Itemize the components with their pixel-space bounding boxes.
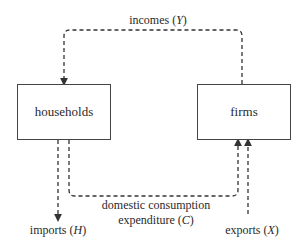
firms-label: firms	[230, 104, 257, 120]
firms-node: firms	[197, 84, 291, 140]
imports-label: imports (H)	[20, 223, 96, 238]
incomes-label: incomes (Y)	[118, 13, 198, 28]
households-node: households	[17, 84, 111, 140]
consumption-label: domestic consumption expenditure (C)	[94, 198, 218, 228]
households-label: households	[35, 104, 94, 120]
incomes-flow-line	[64, 30, 242, 84]
exports-label: exports (X)	[216, 223, 288, 238]
consumption-flow-line	[69, 140, 238, 196]
